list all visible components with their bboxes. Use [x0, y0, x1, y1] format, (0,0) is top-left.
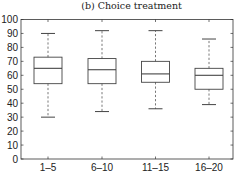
x-tick-label: 11–15 [142, 162, 170, 173]
axes: 01020304050607080901001–56–1011–1516–20 [1, 14, 233, 173]
box-3 [142, 31, 170, 109]
x-tick-label: 6–10 [91, 162, 114, 173]
y-tick-label: 10 [7, 140, 19, 151]
y-tick-label: 80 [7, 42, 19, 53]
iqr-box [34, 57, 62, 84]
box-plot: 01020304050607080901001–56–1011–1516–20 [0, 0, 235, 173]
y-tick-label: 100 [1, 14, 18, 25]
y-tick-label: 60 [7, 70, 19, 81]
y-tick-label: 50 [7, 84, 19, 95]
box-4 [195, 39, 223, 105]
x-tick-label: 1–5 [40, 162, 57, 173]
box-2 [88, 31, 116, 112]
y-tick-label: 70 [7, 56, 19, 67]
y-tick-label: 30 [7, 112, 19, 123]
iqr-box [195, 68, 223, 89]
y-tick-label: 40 [7, 98, 19, 109]
iqr-box [88, 59, 116, 84]
y-tick-label: 0 [12, 154, 18, 165]
box-1 [34, 33, 62, 117]
y-tick-label: 20 [7, 126, 19, 137]
iqr-box [142, 61, 170, 82]
boxes [34, 31, 223, 117]
y-tick-label: 90 [7, 28, 19, 39]
x-tick-label: 16–20 [195, 162, 223, 173]
